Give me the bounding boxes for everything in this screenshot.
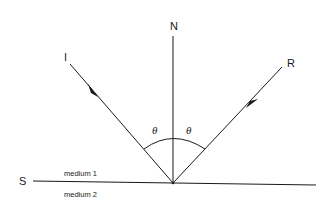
normal-label: N xyxy=(170,20,178,32)
reflection-diagram: N I R S θ θ medium 1 medium 2 xyxy=(0,0,333,207)
medium-1-label: medium 1 xyxy=(64,169,97,178)
angle-arc xyxy=(144,139,205,150)
incident-label: I xyxy=(64,51,67,63)
reflected-label: R xyxy=(287,57,295,69)
medium-2-label: medium 2 xyxy=(64,190,97,199)
theta-reflected-label: θ xyxy=(186,124,192,136)
theta-incident-label: θ xyxy=(152,124,158,136)
incident-ray xyxy=(70,64,173,183)
surface-label: S xyxy=(19,175,26,187)
incidence-point xyxy=(172,182,175,185)
